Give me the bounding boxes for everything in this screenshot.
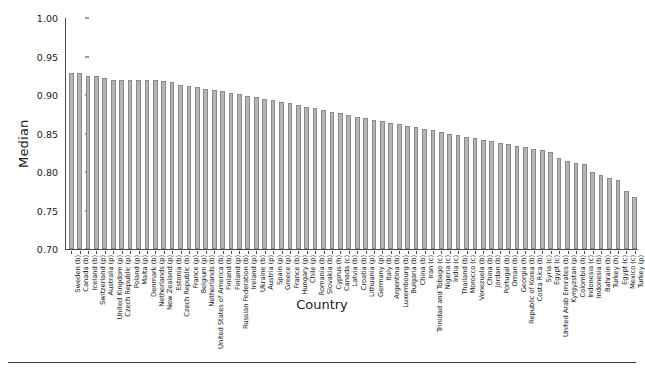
x-tick-mark: [525, 251, 526, 254]
bar: [498, 143, 503, 249]
bar: [119, 80, 124, 249]
bar: [531, 149, 536, 249]
x-tick-label: Denmark (b): [150, 255, 158, 297]
x-tick-mark: [483, 251, 484, 254]
bar: [363, 118, 368, 249]
x-tick-label: Spain (p): [276, 255, 284, 285]
x-tick-label: Romania (b): [318, 255, 326, 295]
x-tick-mark: [273, 251, 274, 254]
bar: [582, 164, 587, 249]
x-tick-label: Costa Rica (b): [536, 255, 544, 301]
x-tick-label: Russian Federation (b): [242, 255, 250, 329]
bar: [271, 100, 276, 249]
x-axis-line: [65, 249, 638, 250]
bar: [153, 80, 158, 249]
x-tick-mark: [206, 251, 207, 254]
bar: [229, 93, 234, 249]
x-tick-mark: [551, 251, 552, 254]
x-tick-mark: [239, 251, 240, 254]
x-tick-mark: [122, 251, 123, 254]
bar: [540, 150, 545, 249]
x-tick-label: Canada (c): [343, 255, 351, 291]
bar: [548, 152, 553, 249]
bar: [599, 175, 604, 249]
x-tick-mark: [433, 251, 434, 254]
x-tick-mark: [265, 251, 266, 254]
x-tick-label: Estonia (b): [175, 255, 183, 291]
x-tick-mark: [248, 251, 249, 254]
x-tick-mark: [164, 251, 165, 254]
x-tick-label: Morocco (c): [469, 255, 477, 294]
x-tick-label: Turkey (p): [637, 255, 645, 288]
x-tick-label: Poland (p): [133, 255, 141, 288]
x-tick-label: France (p): [192, 255, 200, 288]
x-tick-label: Trinidad and Tobago (c): [436, 255, 444, 332]
bar: [178, 85, 183, 249]
bar: [296, 105, 301, 249]
bar: [321, 110, 326, 249]
x-tick-label: Germany (p): [377, 255, 385, 297]
bar: [195, 87, 200, 249]
bar: [574, 163, 579, 249]
x-tick-label: China (b): [419, 255, 427, 285]
x-tick-mark: [147, 251, 148, 254]
x-tick-label: France (b): [293, 255, 301, 288]
x-tick-label: Finland (b): [225, 255, 233, 290]
x-tick-mark: [399, 251, 400, 254]
x-tick-label: Slovakia (b): [326, 255, 334, 294]
y-tick-label: 0.95: [24, 51, 58, 62]
x-tick-label: Croatia (b): [360, 255, 368, 290]
x-tick-label: Oman (b): [511, 255, 519, 286]
bar: [422, 129, 427, 249]
x-tick-mark: [349, 251, 350, 254]
x-tick-mark: [584, 251, 585, 254]
x-tick-mark: [374, 251, 375, 254]
bar: [439, 132, 444, 249]
x-tick-mark: [96, 251, 97, 254]
bar: [102, 78, 107, 249]
x-tick-label: Hungary (p): [301, 255, 309, 295]
x-tick-label: Egypt (c): [553, 255, 561, 285]
x-tick-label: Lithuania (p): [368, 255, 376, 297]
bar: [481, 140, 486, 249]
x-tick-mark: [576, 251, 577, 254]
x-tick-mark: [80, 251, 81, 254]
bar: [624, 191, 629, 249]
x-tick-mark: [610, 251, 611, 254]
y-tick-label: 0.80: [24, 167, 58, 178]
bar: [523, 147, 528, 249]
x-tick-mark: [450, 251, 451, 254]
x-tick-mark: [425, 251, 426, 254]
x-tick-mark: [155, 251, 156, 254]
x-tick-mark: [315, 251, 316, 254]
bar: [405, 126, 410, 249]
x-tick-label: Republic of Korea (b): [528, 255, 536, 324]
bar: [489, 141, 494, 249]
x-tick-mark: [231, 251, 232, 254]
x-tick-label: Ukraine (b): [259, 255, 267, 292]
x-tick-mark: [357, 251, 358, 254]
x-tick-label: Argentina (b): [393, 255, 401, 299]
bar: [111, 80, 116, 249]
x-tick-mark: [282, 251, 283, 254]
x-tick-label: China (b): [486, 255, 494, 285]
x-tick-mark: [534, 251, 535, 254]
x-axis-title: Country: [0, 297, 644, 312]
x-tick-mark: [568, 251, 569, 254]
bar: [506, 144, 511, 249]
x-tick-mark: [197, 251, 198, 254]
y-axis-title: Median: [2, 70, 17, 90]
x-tick-label: Venezuela (b): [478, 255, 486, 300]
x-tick-mark: [223, 251, 224, 254]
x-tick-label: Canada (b): [82, 255, 90, 292]
x-tick-label: Indonesia (b): [595, 255, 603, 298]
bar: [304, 107, 309, 249]
bar: [245, 96, 250, 249]
bar: [170, 82, 175, 249]
x-tick-label: Egypt (c): [621, 255, 629, 285]
x-tick-label: Cyprus (h): [335, 255, 343, 290]
y-tick-label: 0.75: [24, 205, 58, 216]
y-tick-label: 0.70: [24, 244, 58, 255]
x-tick-label: Malta (p): [141, 255, 149, 285]
x-tick-mark: [88, 251, 89, 254]
